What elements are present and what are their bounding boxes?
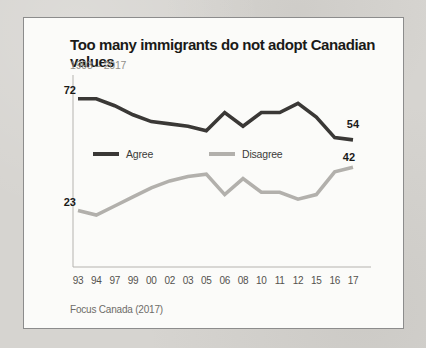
- first-value-label-disagree: 23: [64, 196, 76, 208]
- chart-legend: Agree Disagree: [93, 148, 282, 160]
- legend-item-disagree: Disagree: [209, 148, 282, 160]
- legend-label-agree: Agree: [126, 148, 153, 160]
- agree-line-swatch: [93, 152, 119, 156]
- x-tick-label-15: 15: [311, 275, 322, 286]
- x-tick-label-11: 11: [275, 275, 286, 286]
- x-tick-label-06: 06: [219, 275, 230, 286]
- x-tick-label-03: 03: [183, 275, 194, 286]
- x-tick-label-08: 08: [238, 275, 249, 286]
- x-tick-label-05: 05: [201, 275, 212, 286]
- x-tick-label-12: 12: [293, 275, 304, 286]
- x-tick-label-94: 94: [91, 275, 102, 286]
- last-value-label-agree: 54: [347, 118, 360, 130]
- legend-item-agree: Agree: [93, 148, 153, 160]
- source-note: Focus Canada (2017): [70, 304, 163, 315]
- x-tick-label-17: 17: [348, 275, 359, 286]
- x-tick-label-93: 93: [73, 275, 84, 286]
- last-value-label-disagree: 42: [343, 151, 355, 163]
- first-value-label-agree: 72: [64, 84, 76, 96]
- chart-svg: 7254234293949799000203050608101112151617: [24, 73, 405, 303]
- x-tick-label-99: 99: [128, 275, 139, 286]
- chart-subtitle: 1993 – 2017: [70, 59, 126, 71]
- chart-card: Too many immigrants do not adopt Canadia…: [23, 17, 404, 329]
- line-agree: [78, 99, 353, 140]
- x-tick-label-97: 97: [109, 275, 120, 286]
- legend-label-disagree: Disagree: [242, 148, 282, 160]
- line-disagree: [78, 167, 353, 215]
- x-tick-label-10: 10: [256, 275, 267, 286]
- x-tick-label-16: 16: [329, 275, 340, 286]
- disagree-line-swatch: [209, 152, 235, 156]
- x-tick-label-00: 00: [146, 275, 157, 286]
- x-tick-label-02: 02: [164, 275, 175, 286]
